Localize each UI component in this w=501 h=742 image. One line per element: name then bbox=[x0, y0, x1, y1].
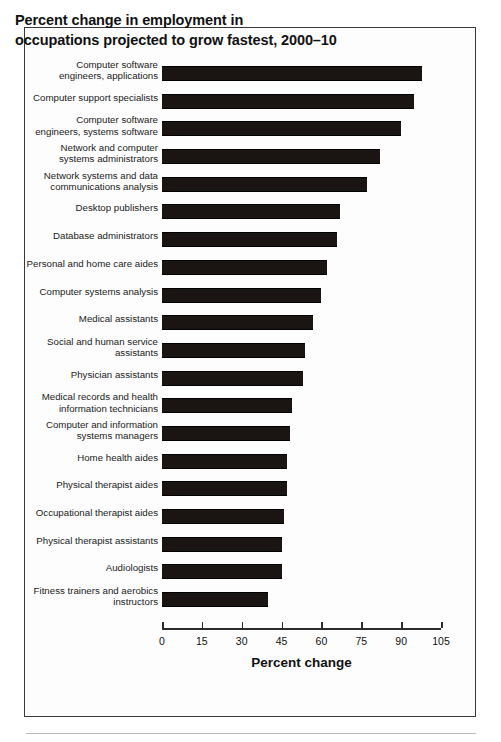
category-label-line: Audiologists bbox=[0, 562, 158, 573]
x-axis-tick-label: 75 bbox=[341, 635, 381, 647]
chart-title-line-2: occupations projected to grow fastest, 2… bbox=[15, 30, 435, 50]
bar bbox=[162, 481, 287, 496]
x-axis-tick-label: 15 bbox=[182, 635, 222, 647]
category-label: Network systems and datacommunications a… bbox=[0, 170, 158, 193]
bar-row: Physical therapist assistants bbox=[0, 531, 452, 559]
bar-row: Computer support specialists bbox=[0, 88, 452, 116]
bar-row: Network and computersystems administrato… bbox=[0, 143, 452, 171]
category-label-line: Network and computer bbox=[0, 142, 158, 153]
category-label: Audiologists bbox=[0, 562, 158, 573]
plot-area: Computer softwareengineers, applications… bbox=[0, 60, 452, 630]
bar bbox=[162, 66, 422, 81]
bar-track bbox=[162, 537, 282, 552]
x-axis-tick-label: 0 bbox=[142, 635, 182, 647]
x-axis: 0153045607590105 bbox=[162, 628, 441, 630]
category-label: Desktop publishers bbox=[0, 202, 158, 213]
bar bbox=[162, 232, 337, 247]
category-label-line: communications analysis bbox=[0, 181, 158, 192]
bar bbox=[162, 371, 303, 386]
bar bbox=[162, 592, 268, 607]
bar-row: Computer softwareengineers, applications bbox=[0, 60, 452, 88]
bar-track bbox=[162, 177, 367, 192]
category-label-line: Network systems and data bbox=[0, 170, 158, 181]
category-label-line: Medical assistants bbox=[0, 313, 158, 324]
category-label-line: Fitness trainers and aerobics bbox=[0, 585, 158, 596]
category-label-line: Medical records and health bbox=[0, 391, 158, 402]
bar-track bbox=[162, 121, 401, 136]
bar-track bbox=[162, 66, 422, 81]
bar-track bbox=[162, 260, 327, 275]
category-label: Occupational therapist aides bbox=[0, 507, 158, 518]
category-label: Network and computersystems administrato… bbox=[0, 142, 158, 165]
x-axis-tick-label: 60 bbox=[301, 635, 341, 647]
bar bbox=[162, 509, 284, 524]
category-label: Physician assistants bbox=[0, 369, 158, 380]
category-label: Medical records and healthinformation te… bbox=[0, 391, 158, 414]
bar-track bbox=[162, 94, 414, 109]
bar-row: Fitness trainers and aerobicsinstructors bbox=[0, 586, 452, 614]
bar bbox=[162, 426, 290, 441]
bottom-divider bbox=[26, 733, 476, 734]
bar-track bbox=[162, 481, 287, 496]
bar-row: Computer and informationsystems managers bbox=[0, 420, 452, 448]
category-label: Computer and informationsystems managers bbox=[0, 419, 158, 442]
bar-track bbox=[162, 149, 380, 164]
category-label: Fitness trainers and aerobicsinstructors bbox=[0, 585, 158, 608]
category-label-line: instructors bbox=[0, 596, 158, 607]
bar bbox=[162, 564, 282, 579]
category-label: Computer softwareengineers, applications bbox=[0, 59, 158, 82]
bar bbox=[162, 343, 305, 358]
bar-row: Audiologists bbox=[0, 558, 452, 586]
x-axis-tick-label: 90 bbox=[381, 635, 421, 647]
category-label-line: Physical therapist assistants bbox=[0, 535, 158, 546]
bar-row: Home health aides bbox=[0, 448, 452, 476]
category-label-line: systems managers bbox=[0, 430, 158, 441]
bar-row: Social and human serviceassistants bbox=[0, 337, 452, 365]
category-label-line: engineers, applications bbox=[0, 70, 158, 81]
bar-track bbox=[162, 204, 340, 219]
bar-track bbox=[162, 343, 305, 358]
bar-track bbox=[162, 592, 268, 607]
chart-title-line-1: Percent change in employment in bbox=[15, 10, 435, 30]
bar-row: Personal and home care aides bbox=[0, 254, 452, 282]
bar bbox=[162, 454, 287, 469]
bar-track bbox=[162, 509, 284, 524]
category-label-line: Personal and home care aides bbox=[0, 258, 158, 269]
bar-track bbox=[162, 398, 292, 413]
chart-title: Percent change in employment in occupati… bbox=[15, 10, 435, 50]
category-label-line: Physician assistants bbox=[0, 369, 158, 380]
bar-row: Medical records and healthinformation te… bbox=[0, 392, 452, 420]
bar-row: Desktop publishers bbox=[0, 198, 452, 226]
bar-row: Physical therapist aides bbox=[0, 475, 452, 503]
x-axis-tick-label: 30 bbox=[222, 635, 262, 647]
bar bbox=[162, 149, 380, 164]
category-label-line: Social and human service bbox=[0, 336, 158, 347]
x-axis-tick bbox=[202, 622, 204, 628]
category-label-line: Computer and information bbox=[0, 419, 158, 430]
bar bbox=[162, 398, 292, 413]
bar bbox=[162, 288, 321, 303]
category-label-line: Physical therapist aides bbox=[0, 479, 158, 490]
category-label: Computer softwareengineers, systems soft… bbox=[0, 114, 158, 137]
bar bbox=[162, 204, 340, 219]
bar bbox=[162, 177, 367, 192]
category-label: Database administrators bbox=[0, 230, 158, 241]
x-axis-tick bbox=[361, 622, 363, 628]
category-label-line: assistants bbox=[0, 347, 158, 358]
category-label-line: Computer software bbox=[0, 59, 158, 70]
category-label-line: engineers, systems software bbox=[0, 126, 158, 137]
category-label: Computer support specialists bbox=[0, 92, 158, 103]
category-label-line: Computer software bbox=[0, 114, 158, 125]
category-label-line: Computer support specialists bbox=[0, 92, 158, 103]
bar bbox=[162, 537, 282, 552]
category-label: Physical therapist assistants bbox=[0, 535, 158, 546]
bar-row: Computer systems analysis bbox=[0, 282, 452, 310]
category-label-line: information technicians bbox=[0, 403, 158, 414]
category-label: Physical therapist aides bbox=[0, 479, 158, 490]
category-label: Personal and home care aides bbox=[0, 258, 158, 269]
x-axis-tick-label: 105 bbox=[421, 635, 461, 647]
x-axis-tick bbox=[282, 622, 284, 628]
bar bbox=[162, 315, 313, 330]
x-axis-tick bbox=[321, 622, 323, 628]
bar-row: Physician assistants bbox=[0, 365, 452, 393]
